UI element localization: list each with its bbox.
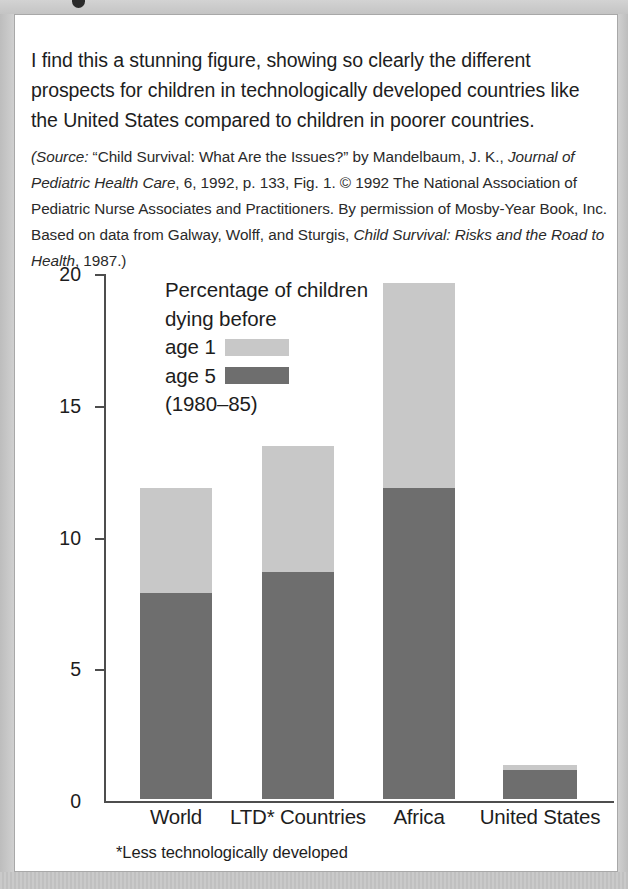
- y-tick-label-5: 5: [70, 658, 81, 681]
- bar-africa[interactable]: [383, 283, 455, 800]
- bar-ltd-countries-age5-segment[interactable]: [262, 572, 334, 799]
- bar-africa-age1-segment[interactable]: [383, 283, 455, 489]
- legend-period-line: (1980–85): [165, 390, 368, 419]
- legend-item-age-1[interactable]: age 1: [165, 333, 368, 362]
- y-tick-5: [95, 669, 105, 671]
- right-edge-rail: [618, 14, 628, 872]
- legend-title-text-2: dying before: [165, 305, 277, 334]
- legend-swatch-age-1: [225, 339, 289, 356]
- bar-ltd-countries-age1-segment[interactable]: [262, 446, 334, 573]
- legend-title-line-2: dying before: [165, 305, 368, 334]
- bar-world[interactable]: [140, 488, 212, 799]
- legend-item-age-5[interactable]: age 5: [165, 362, 368, 391]
- x-axis-line: [104, 801, 614, 803]
- stacked-bar-chart: Percentage 20 15 10 5 0: [15, 15, 618, 872]
- y-axis-tick-labels: 20 15 10 5 0: [15, 274, 95, 801]
- bottom-edge-band: [0, 872, 628, 889]
- legend-title-text-1: Percentage of children: [165, 276, 368, 305]
- y-tick-15: [95, 406, 105, 408]
- x-axis-tick-labels: World LTD* Countries Africa United State…: [104, 805, 614, 839]
- y-tick-label-15: 15: [59, 394, 81, 417]
- y-tick-label-20: 20: [59, 263, 81, 286]
- left-edge-rail: [0, 14, 14, 872]
- legend-period-text: (1980–85): [165, 390, 258, 419]
- page-container: I find this a stunning figure, showing s…: [0, 0, 628, 889]
- x-tick-label-world: World: [150, 805, 202, 829]
- y-tick-20: [95, 274, 105, 276]
- x-tick-label-united-states: United States: [480, 805, 600, 829]
- y-tick-label-0: 0: [70, 790, 81, 813]
- x-tick-label-africa: Africa: [393, 805, 444, 829]
- bar-ltd-countries[interactable]: [262, 446, 334, 799]
- bar-world-age1-segment[interactable]: [140, 488, 212, 593]
- chart-footnote: *Less technologically developed: [116, 843, 348, 862]
- top-edge-band: [0, 0, 628, 14]
- legend-label-age-1: age 1: [165, 333, 216, 362]
- y-tick-10: [95, 538, 105, 540]
- legend-label-age-5: age 5: [165, 362, 216, 391]
- x-tick-label-ltd-countries: LTD* Countries: [230, 805, 366, 829]
- y-tick-label-10: 10: [59, 526, 81, 549]
- bar-world-age5-segment[interactable]: [140, 593, 212, 799]
- content-card: I find this a stunning figure, showing s…: [14, 14, 618, 872]
- chart-legend: Percentage of children dying before age …: [165, 276, 368, 419]
- bar-united-states-age5-segment[interactable]: [503, 770, 577, 799]
- legend-title-line-1: Percentage of children: [165, 276, 368, 305]
- bar-united-states[interactable]: [503, 765, 577, 799]
- legend-swatch-age-5: [225, 367, 289, 384]
- cut-off-glyph: [72, 0, 85, 8]
- bar-africa-age5-segment[interactable]: [383, 488, 455, 799]
